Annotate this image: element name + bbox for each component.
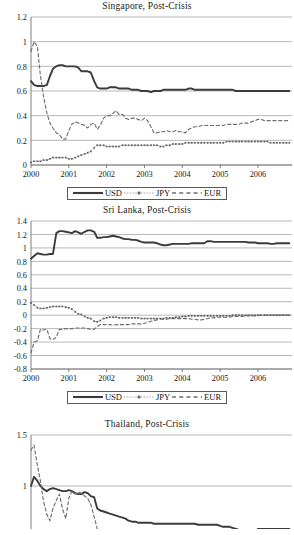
y-axis-tick-label: -0.6 — [14, 352, 27, 361]
series-marker-jpy — [150, 144, 152, 146]
x-axis-tick-label: 2005 — [212, 170, 229, 179]
y-axis-tick-label: 0.6 — [17, 87, 27, 96]
series-marker-jpy — [279, 142, 281, 144]
series-marker-jpy — [203, 142, 205, 144]
series-marker-jpy — [257, 141, 259, 143]
series-marker-jpy — [229, 315, 231, 317]
series-marker-jpy — [62, 157, 64, 159]
series-marker-jpy — [134, 144, 136, 146]
series-marker-jpy — [40, 160, 42, 162]
series-marker-jpy — [260, 141, 262, 143]
series-marker-jpy — [43, 308, 45, 310]
series-marker-jpy — [156, 144, 158, 146]
plot-area-singapore: 00.20.40.60.811.220002001200220032004200… — [0, 11, 294, 181]
series-marker-jpy — [33, 160, 35, 162]
series-marker-jpy — [153, 318, 155, 320]
series-marker-jpy — [122, 317, 124, 319]
series-marker-jpy — [46, 307, 48, 309]
series-marker-jpy — [267, 141, 269, 143]
series-marker-jpy — [203, 315, 205, 317]
series-marker-jpy — [68, 158, 70, 160]
series-marker-jpy — [222, 315, 224, 317]
x-axis-tick-label: 2000 — [23, 170, 40, 179]
series-marker-jpy — [175, 316, 177, 318]
figure-page: Singapore, Post-Crisis 00.20.40.60.811.2… — [0, 0, 294, 535]
series-marker-jpy — [77, 156, 79, 158]
series-marker-jpy — [141, 144, 143, 146]
series-marker-jpy — [229, 141, 231, 143]
series-marker-jpy — [144, 318, 146, 320]
series-marker-jpy — [188, 315, 190, 317]
series-marker-jpy — [175, 143, 177, 145]
series-marker-jpy — [235, 141, 237, 143]
series-marker-jpy — [169, 144, 171, 146]
series-marker-jpy — [55, 306, 57, 308]
legend-entry-jpy: JPY — [123, 189, 171, 198]
series-marker-jpy — [80, 154, 82, 156]
series-marker-jpy — [232, 141, 234, 143]
y-axis-tick-label: -0.2 — [14, 325, 27, 334]
series-marker-jpy — [178, 316, 180, 318]
y-axis-tick-label: 0.2 — [17, 298, 27, 307]
y-axis-tick-label: 0.8 — [17, 63, 27, 72]
series-marker-jpy — [181, 316, 183, 318]
series-marker-jpy — [30, 162, 32, 164]
series-marker-jpy — [137, 317, 139, 319]
series-marker-jpy — [65, 306, 67, 308]
series-marker-jpy — [144, 144, 146, 146]
series-marker-jpy — [285, 142, 287, 144]
series-marker-jpy — [216, 142, 218, 144]
series-marker-jpy — [103, 318, 105, 320]
series-marker-jpy — [55, 157, 57, 159]
series-marker-jpy — [87, 152, 89, 154]
series-marker-jpy — [65, 157, 67, 159]
series-line-eur — [31, 315, 289, 353]
series-marker-jpy — [52, 306, 54, 308]
series-marker-jpy — [118, 146, 120, 148]
series-marker-jpy — [191, 142, 193, 144]
y-axis-tick-label: 0.2 — [17, 137, 27, 146]
series-marker-jpy — [219, 142, 221, 144]
series-marker-jpy — [210, 315, 212, 317]
x-axis-tick-label: 2006 — [250, 374, 267, 383]
legend-entry-eur: EUR — [171, 189, 222, 198]
series-marker-jpy — [59, 306, 61, 308]
series-marker-jpy — [210, 142, 212, 144]
series-marker-jpy — [200, 142, 202, 144]
series-marker-jpy — [49, 158, 51, 160]
series-marker-jpy — [125, 144, 127, 146]
legend-entry-eur: EUR — [171, 393, 222, 402]
x-axis-tick-label: 2006 — [250, 170, 267, 179]
series-marker-jpy — [131, 317, 133, 319]
series-marker-jpy — [84, 153, 86, 155]
legend-srilanka: USD JPY EUR — [67, 391, 227, 405]
series-marker-jpy — [106, 317, 108, 319]
series-line-jpy — [31, 142, 289, 163]
series-marker-jpy — [90, 318, 92, 320]
series-marker-jpy — [141, 318, 143, 320]
series-marker-jpy — [147, 318, 149, 320]
legend-label-jpy: JPY — [155, 189, 171, 198]
series-marker-jpy — [219, 315, 221, 317]
y-axis-tick-label: 1 — [23, 38, 27, 47]
series-marker-jpy — [178, 143, 180, 145]
plot-svg-thailand: 0.511.5 — [0, 429, 294, 529]
y-axis-tick-label: 1.2 — [17, 13, 27, 22]
series-marker-jpy — [238, 141, 240, 143]
series-marker-jpy — [207, 315, 209, 317]
series-marker-jpy — [109, 316, 111, 318]
solid-line-icon — [72, 189, 104, 197]
series-marker-jpy — [238, 314, 240, 316]
series-marker-jpy — [96, 144, 98, 146]
series-marker-jpy — [71, 158, 73, 160]
series-marker-jpy — [115, 316, 117, 318]
legend-row-srilanka: USD JPY EUR — [0, 387, 294, 405]
x-axis-tick-label: 2001 — [61, 374, 78, 383]
y-axis-tick-label: -0.4 — [14, 338, 28, 347]
series-marker-jpy — [74, 311, 76, 313]
x-axis-tick-label: 2002 — [98, 170, 115, 179]
series-marker-jpy — [128, 144, 130, 146]
series-marker-jpy — [128, 317, 130, 319]
dashed-line-icon — [171, 189, 203, 197]
dashed-line-icon — [171, 393, 203, 401]
